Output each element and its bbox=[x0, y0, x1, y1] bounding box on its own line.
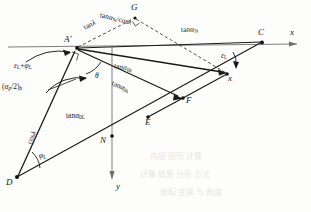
phi-sub: L bbox=[29, 64, 32, 70]
dot-e bbox=[181, 96, 185, 100]
point-label-g: G bbox=[131, 3, 138, 12]
t0k-up-sub: 0k bbox=[126, 66, 132, 73]
t0L-fn: tan bbox=[66, 111, 75, 120]
tan-alphaN-sub2: N bbox=[194, 28, 198, 34]
arrowhead-epsilon-plus-phi bbox=[63, 50, 71, 57]
dot-c bbox=[260, 41, 264, 45]
epsL-sub: L bbox=[224, 54, 227, 60]
axis-label-x: x bbox=[290, 28, 294, 37]
label-tan-alpha0L: tanα0L bbox=[66, 112, 85, 121]
dot-d bbox=[110, 134, 114, 138]
theta-sym: θ bbox=[95, 71, 99, 80]
segment-n-e bbox=[148, 98, 183, 117]
segment-b-c bbox=[17, 42, 262, 177]
arrowhead-epsilon-l bbox=[233, 61, 239, 69]
arc-epsilon-plus-phi bbox=[26, 51, 70, 62]
figure-canvas: 内容 图形 计算 计算 结果 分析 方法 坐标 变换 与 角度 A' G C x… bbox=[0, 0, 311, 212]
label-tan-alphaN: tanαN bbox=[181, 25, 198, 34]
point-label-e: F bbox=[186, 96, 192, 105]
right-angle-mark-g bbox=[133, 22, 140, 27]
diagram-vectors bbox=[0, 0, 311, 212]
dot-aprime bbox=[75, 46, 79, 50]
point-label-n: E bbox=[145, 118, 151, 127]
label-epsilon-plus-phi: εL+φL bbox=[14, 62, 32, 71]
phiL-sub: L bbox=[43, 154, 46, 160]
dot-b bbox=[15, 175, 19, 179]
point-label-aprime: A' bbox=[64, 35, 71, 44]
label-alpha-p-half-h: (αp/2)h bbox=[2, 83, 22, 92]
axis-label-y: y bbox=[116, 182, 120, 191]
arrowhead-alpha-p-half bbox=[79, 76, 87, 83]
point-label-d: N bbox=[100, 136, 106, 145]
dot-g bbox=[133, 16, 136, 19]
y-axis-arrowhead bbox=[110, 171, 115, 180]
label-theta: θ bbox=[95, 72, 99, 80]
t0L-sub: 0L bbox=[79, 114, 85, 120]
x-axis-arrowhead bbox=[289, 42, 297, 47]
point-label-b: D bbox=[6, 178, 13, 187]
label-epsilon-l: εL bbox=[221, 52, 227, 61]
point-label-c: C bbox=[258, 28, 264, 37]
ap-sub-h: h bbox=[19, 85, 22, 91]
label-phi-l: φL bbox=[39, 152, 46, 161]
point-label-f: x bbox=[228, 74, 232, 83]
